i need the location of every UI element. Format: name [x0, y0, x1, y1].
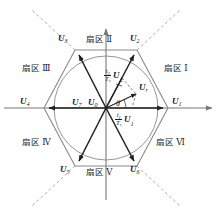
dashed-extension-nw [32, 10, 75, 50]
vector-subscript-u7: 7 [79, 101, 82, 108]
vector-label-u0: U0 [88, 98, 98, 107]
vector-symbol-u1: U [172, 96, 179, 106]
vector-subscript-u5: 5 [67, 168, 70, 175]
vector-symbol-u7: U [72, 97, 79, 107]
sector-label-2: 扇区 Ⅱ [86, 35, 112, 44]
theta-angle-label: θ [116, 100, 120, 108]
dashed-extension-se [137, 166, 180, 206]
vector-symbol-u2: U [130, 33, 137, 43]
reference-vector-label: Ur [139, 83, 148, 92]
vector-subscript-u6: 6 [137, 168, 140, 175]
vector-subscript-u3: 3 [65, 37, 68, 44]
dashed-parallel-u1 [122, 78, 136, 94]
theta-angle-arc [124, 100, 126, 108]
vector-symbol-u6: U [130, 164, 137, 174]
parallelogram-construction [122, 78, 136, 108]
vector-arrow-u5 [79, 108, 106, 161]
vector-symbol-u3: U [58, 33, 65, 43]
component-denominator-u1: Ts [115, 119, 122, 127]
component-ratio-u1: t1 Ts [115, 112, 122, 127]
sector-label-3: 扇区 Ⅲ [22, 64, 50, 73]
component-label-u1: t1 Ts U1 [115, 112, 134, 127]
vector-subscript-u1: 1 [179, 100, 182, 107]
sector-label-6: 扇区 Ⅵ [156, 138, 185, 147]
vector-label-u5: U5 [60, 165, 70, 174]
diagram-canvas [0, 0, 216, 217]
vector-symbol-u4: U [20, 96, 27, 106]
component-vector-label-u2: U2 [113, 70, 123, 82]
sector-label-1: 扇区 Ⅰ [164, 64, 187, 73]
vector-label-u2: U2 [130, 34, 140, 43]
component-numerator-u2: t2 [105, 68, 111, 75]
component-vector-label-u1: U1 [124, 114, 134, 126]
vector-subscript-u4: 4 [27, 100, 30, 107]
vector-label-u6: U6 [130, 165, 140, 174]
reference-vector-subscript: r [146, 86, 148, 93]
sector-label-4: 扇区 Ⅳ [22, 138, 51, 147]
vector-label-u3: U3 [58, 34, 68, 43]
vector-symbol-u5: U [60, 164, 67, 174]
vector-label-u4: U4 [20, 97, 30, 106]
component-ratio-u2: t2 Ts [104, 68, 111, 83]
component-label-u2: t2 Ts U2 [104, 68, 123, 83]
vector-label-u7: U7 [72, 98, 82, 107]
component-denominator-u2: Ts [104, 75, 111, 83]
svpwm-hexagon-diagram: 扇区 Ⅰ 扇区 Ⅱ 扇区 Ⅲ 扇区 Ⅳ 扇区 Ⅴ 扇区 Ⅵ U1 U2 U3 U… [0, 0, 216, 217]
dashed-extension-ne [137, 10, 180, 50]
vector-label-u1: U1 [172, 97, 182, 106]
vector-symbol-u0: U [88, 97, 95, 107]
reference-vector-symbol: U [139, 82, 146, 92]
vector-subscript-u2: 2 [137, 37, 140, 44]
component-numerator-u1: t1 [116, 112, 122, 119]
vector-subscript-u0: 0 [95, 101, 98, 108]
sector-label-5: 扇区 Ⅴ [86, 168, 112, 177]
